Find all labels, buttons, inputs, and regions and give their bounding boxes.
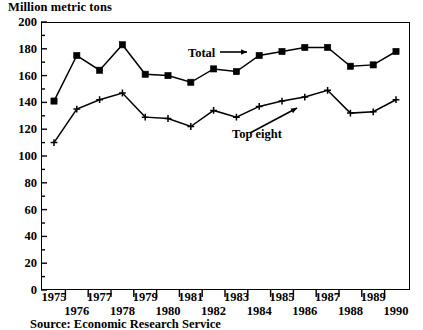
- x-axis-tick-label: 1988: [338, 305, 363, 318]
- y-axis-tick-label: 60: [3, 203, 37, 216]
- x-axis-tick-label: 1986: [292, 305, 317, 318]
- x-axis-tick-label: 1987: [315, 291, 340, 304]
- y-axis-tick-label: 100: [3, 150, 37, 163]
- y-axis-tick-label: 160: [3, 69, 37, 82]
- series-label-total: Total: [188, 46, 215, 61]
- y-axis-tick-label: 200: [3, 16, 37, 29]
- x-axis-tick-label: 1989: [361, 291, 386, 304]
- x-axis-tick-label: 1981: [178, 291, 203, 304]
- x-axis-tick-label: 1975: [42, 291, 67, 304]
- plot-area: [41, 22, 410, 290]
- y-axis-tick-label: 20: [3, 257, 37, 270]
- y-axis-tick-label: 80: [3, 177, 37, 190]
- x-axis-tick-label: 1990: [384, 305, 409, 318]
- x-axis-tick-label: 1978: [110, 305, 135, 318]
- x-axis-tick-label: 1982: [201, 305, 226, 318]
- x-axis-tick-label: 1980: [156, 305, 181, 318]
- source-note: Source: Economic Research Service: [30, 317, 221, 330]
- y-axis-tick-label: 140: [3, 96, 37, 109]
- series-label-top-eight: Top eight: [232, 127, 282, 142]
- chart-figure: Million metric tons 02040608010012014016…: [0, 0, 423, 330]
- x-axis-tick-label: 1976: [64, 305, 89, 318]
- x-axis-tick-label: 1979: [133, 291, 158, 304]
- x-axis-tick-label: 1983: [224, 291, 249, 304]
- x-axis-tick-label: 1977: [87, 291, 112, 304]
- x-axis-tick-label: 1985: [270, 291, 295, 304]
- y-axis-tick-label: 120: [3, 123, 37, 136]
- y-axis-tick-labels: 020406080100120140160180200: [0, 0, 37, 330]
- y-axis-tick-label: 180: [3, 43, 37, 56]
- y-axis-tick-label: 40: [3, 230, 37, 243]
- x-axis-tick-label: 1984: [247, 305, 272, 318]
